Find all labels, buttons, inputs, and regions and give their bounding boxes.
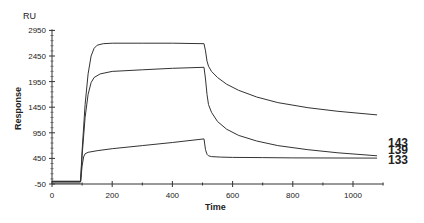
x-axis-title: Time xyxy=(205,202,226,212)
y-tick-label: 450 xyxy=(33,154,47,163)
curves xyxy=(52,43,377,181)
x-tick-label: 200 xyxy=(106,191,120,200)
y-axis-title: Response xyxy=(13,87,23,130)
y-tick-label: 2450 xyxy=(28,52,46,61)
curve-139 xyxy=(52,67,377,181)
y-tick-label: 2950 xyxy=(28,26,46,35)
x-tick-label: 400 xyxy=(166,191,180,200)
series-labels: 143139133 xyxy=(388,136,408,167)
sensorgram-chart: RU Response Time -5045095014501950245029… xyxy=(0,0,424,223)
y-unit-label: RU xyxy=(23,11,36,21)
x-tick-label: 600 xyxy=(226,191,240,200)
y-tick-label: -50 xyxy=(34,180,46,189)
curve-143 xyxy=(52,43,377,181)
y-tick-label: 1450 xyxy=(28,103,46,112)
x-tick-label: 1000 xyxy=(344,191,362,200)
y-tick-label: 950 xyxy=(33,129,47,138)
x-tick-label: 800 xyxy=(286,191,300,200)
x-tick-label: 0 xyxy=(50,191,55,200)
curve-133 xyxy=(52,139,377,182)
series-label-133: 133 xyxy=(388,153,408,167)
y-tick-label: 1950 xyxy=(28,78,46,87)
